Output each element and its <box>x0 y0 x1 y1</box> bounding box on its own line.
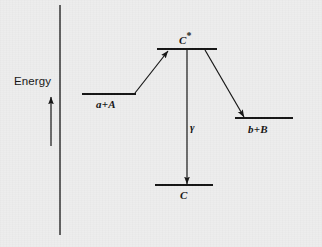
energy-level-diagram-figure: Energy C* a+A b+B C γ <box>0 0 322 247</box>
transition-arrow-dissociation <box>205 50 244 117</box>
level-label-excited-text: C <box>179 34 187 46</box>
transition-arrow-formation <box>135 51 168 93</box>
level-label-excited: C* <box>179 31 192 46</box>
excited-superscript-star: * <box>187 30 192 41</box>
level-label-ground: C <box>180 190 188 201</box>
diagram-canvas <box>0 0 322 247</box>
level-label-reactants: a+A <box>96 99 116 110</box>
photon-emission-label: γ <box>190 122 195 133</box>
energy-axis-label: Energy <box>14 76 51 88</box>
level-label-products: b+B <box>248 124 268 135</box>
